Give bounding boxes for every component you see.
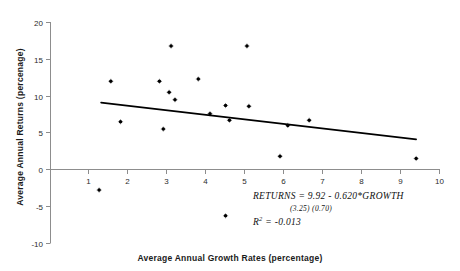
- x-tick-label: 5: [242, 177, 247, 186]
- scatter-point: [118, 119, 123, 124]
- x-axis-title: Average Annual Growth Rates (percentage): [0, 253, 460, 263]
- y-tick-label: 5: [39, 129, 44, 138]
- y-tick-label: 0: [39, 166, 44, 175]
- chart-canvas: 20 15 10 5 0 -5 -10 1 2 3 4 5: [0, 0, 460, 271]
- y-axis-ticks: [46, 23, 51, 244]
- scatter-point: [223, 213, 228, 218]
- x-tick-label: 1: [86, 177, 91, 186]
- r-squared-value: = -0.013: [265, 217, 301, 227]
- x-tick-label: 4: [203, 177, 208, 186]
- x-axis-tick-labels: 1 2 3 4 5 6 7 8 9 10: [86, 177, 444, 186]
- x-tick-label: 7: [320, 177, 325, 186]
- x-tick-label: 6: [281, 177, 286, 186]
- scatter-point: [414, 156, 419, 161]
- scatter-point: [244, 43, 249, 48]
- regression-line: [101, 103, 416, 140]
- x-axis-ticks: [89, 170, 440, 175]
- scatter-point: [246, 104, 251, 109]
- scatter-point: [172, 97, 177, 102]
- scatter-point: [97, 187, 102, 192]
- regression-equation-annotation: RETURNS = 9.92 - 0.620*GROWTH: [253, 191, 404, 201]
- scatter-point: [167, 90, 172, 95]
- scatter-point: [307, 118, 312, 123]
- x-tick-label: 9: [398, 177, 403, 186]
- y-tick-label: -5: [36, 203, 44, 212]
- y-tick-label: 20: [34, 19, 43, 28]
- x-tick-label: 2: [125, 177, 130, 186]
- x-tick-label: 8: [359, 177, 364, 186]
- y-axis-title: Average Annual Returns (percenage): [15, 27, 25, 227]
- scatter-point: [196, 77, 201, 82]
- scatter-point: [157, 79, 162, 84]
- y-axis-tick-labels: 20 15 10 5 0 -5 -10: [31, 19, 43, 249]
- scatter-point: [277, 154, 282, 159]
- x-tick-label: 10: [435, 177, 444, 186]
- scatter-point: [161, 126, 166, 131]
- y-tick-label: 15: [34, 56, 43, 65]
- scatter-point: [168, 43, 173, 48]
- scatter-point: [223, 103, 228, 108]
- standard-errors-annotation: (3.25) (0.70): [290, 204, 332, 213]
- y-tick-label: 10: [34, 93, 43, 102]
- r-squared-annotation: R2 = -0.013: [253, 215, 301, 227]
- x-tick-label: 3: [164, 177, 169, 186]
- scatter-plot-figure: 20 15 10 5 0 -5 -10 1 2 3 4 5: [0, 0, 460, 271]
- y-tick-label: -10: [31, 240, 43, 249]
- r-squared-exponent: 2: [259, 215, 263, 222]
- scatter-point: [108, 79, 113, 84]
